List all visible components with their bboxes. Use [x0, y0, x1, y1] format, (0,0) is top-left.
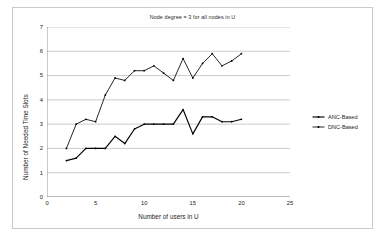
x-axis-title: Number of users in U: [47, 213, 290, 220]
data-point: [192, 133, 194, 135]
data-point: [182, 109, 184, 111]
x-tick-label: 10: [134, 200, 154, 206]
data-point: [211, 53, 213, 55]
legend-item-anc-based[interactable]: ANC-Based: [312, 112, 374, 122]
data-point: [95, 148, 97, 150]
legend-label: DNC-Based: [328, 124, 358, 130]
data-point: [153, 123, 155, 125]
x-tick-label: 20: [231, 200, 251, 206]
data-point: [221, 65, 223, 67]
legend-label: ANC-Based: [328, 114, 358, 120]
data-point: [192, 77, 194, 79]
data-point: [231, 60, 233, 62]
series-dnc-based: [66, 53, 243, 150]
data-point: [241, 53, 243, 55]
axis-lines: [47, 27, 290, 197]
data-point: [75, 123, 77, 125]
x-tick-label: 25: [280, 200, 300, 206]
x-tick-label: 5: [86, 200, 106, 206]
y-tick-label: 7: [31, 24, 43, 30]
series-anc-based: [66, 109, 243, 162]
plot-area: [47, 27, 290, 197]
data-point: [66, 160, 68, 162]
data-point: [202, 116, 204, 118]
legend-item-dnc-based[interactable]: DNC-Based: [312, 122, 374, 132]
y-tick-label: 6: [31, 48, 43, 54]
chart-title: Node degree = 3 for all nodes in U: [13, 14, 372, 20]
data-point: [104, 148, 106, 150]
y-axis-title: Number of Needed Time Slots: [22, 94, 29, 180]
data-point: [172, 80, 174, 82]
data-point: [75, 157, 77, 159]
y-tick-label: 5: [31, 72, 43, 78]
data-point: [143, 123, 145, 125]
legend-marker-icon: [312, 113, 325, 121]
data-point: [134, 128, 136, 130]
data-point: [173, 123, 175, 125]
data-point: [163, 123, 165, 125]
legend: ANC-BasedDNC-Based: [312, 112, 374, 132]
data-point: [114, 77, 116, 79]
data-point: [211, 116, 213, 118]
y-tick-label: 1: [31, 170, 43, 176]
y-tick-label: 3: [31, 121, 43, 127]
data-point: [163, 72, 165, 74]
x-tick-label: 0: [37, 200, 57, 206]
legend-marker-icon: [312, 123, 325, 131]
data-point: [202, 63, 204, 65]
data-point: [104, 94, 106, 96]
data-point: [231, 121, 233, 123]
data-point: [66, 148, 68, 150]
y-tick-label: 2: [31, 145, 43, 151]
data-series-layer: [66, 53, 243, 162]
data-point: [182, 58, 184, 60]
series-line: [66, 110, 241, 161]
gridlines: [47, 27, 290, 197]
data-point: [153, 65, 155, 67]
data-point: [85, 148, 87, 150]
y-tick-label: 4: [31, 97, 43, 103]
data-point: [85, 118, 87, 120]
data-point: [241, 118, 243, 120]
data-point: [124, 143, 126, 145]
data-point: [114, 135, 116, 137]
data-point: [221, 121, 223, 123]
data-point: [134, 70, 136, 72]
data-point: [124, 80, 126, 82]
x-tick-label: 15: [183, 200, 203, 206]
y-tick-label: 0: [31, 194, 43, 200]
data-point: [95, 121, 97, 123]
series-line: [66, 54, 241, 149]
plot-svg: [47, 27, 290, 197]
data-point: [143, 70, 145, 72]
